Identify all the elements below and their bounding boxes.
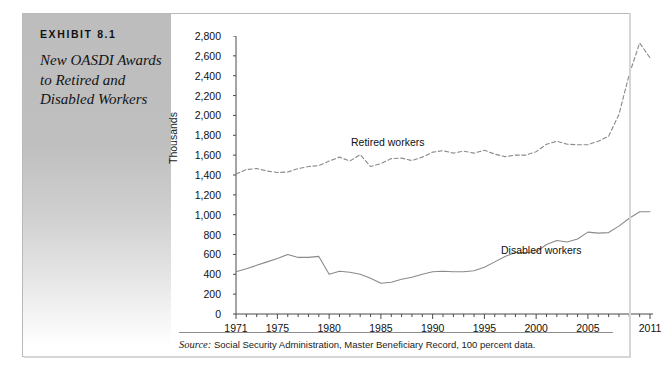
series-annotation-retired: Retired workers	[351, 136, 425, 148]
y-axis-tick: 1,800	[183, 130, 221, 140]
exhibit-number-label: EXHIBIT 8.1	[40, 28, 117, 40]
y-axis-tick: 2,600	[183, 51, 221, 61]
exhibit-frame: EXHIBIT 8.1 New OASDI Awards to Retired …	[22, 13, 630, 357]
y-axis-tick: 1,000	[183, 210, 221, 220]
series-annotation-disabled: Disabled workers	[501, 244, 582, 256]
y-axis-tick: 600	[183, 249, 221, 259]
y-axis-tick: 2,000	[183, 110, 221, 120]
y-axis-tick: 1,400	[183, 170, 221, 180]
y-axis-tick: 2,400	[183, 71, 221, 81]
y-axis-tick: 200	[183, 289, 221, 299]
plot-svg	[233, 36, 653, 328]
source-keyword: Source:	[179, 339, 211, 350]
exhibit-title: New OASDI Awards to Retired and Disabled…	[40, 51, 162, 110]
y-axis-tick: 1,200	[183, 190, 221, 200]
y-axis-tick: 2,200	[183, 91, 221, 101]
source-body: Social Security Administration, Master B…	[211, 339, 535, 350]
y-axis-tick: 1,600	[183, 150, 221, 160]
y-axis-tick-labels: 2,8002,6002,4002,2002,0001,8001,6001,400…	[177, 14, 221, 356]
y-axis-tick: 400	[183, 269, 221, 279]
chart-region: Thousands 2,8002,6002,4002,2002,0001,800…	[171, 14, 629, 356]
source-note: Source: Social Security Administration, …	[179, 339, 535, 350]
y-axis-tick: 800	[183, 230, 221, 240]
source-divider	[179, 332, 613, 333]
y-axis-tick: 0	[183, 309, 221, 319]
y-axis-tick: 2,800	[183, 31, 221, 41]
plot-area: Retired workers Disabled workers	[233, 36, 653, 328]
exhibit-caption-panel: EXHIBIT 8.1 New OASDI Awards to Retired …	[23, 14, 171, 356]
